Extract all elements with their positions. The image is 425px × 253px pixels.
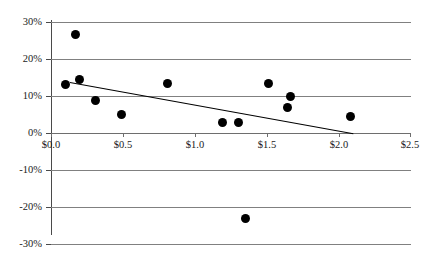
- gridline-20: [51, 59, 411, 60]
- x-tick-label-0: $0.0: [28, 140, 74, 150]
- data-point: [163, 79, 172, 88]
- gridline-10: [51, 96, 411, 97]
- data-point: [218, 118, 227, 127]
- data-point: [346, 112, 355, 121]
- data-point: [91, 96, 100, 105]
- data-point: [264, 79, 273, 88]
- figure-caption: [24, 243, 424, 253]
- scatter-chart: 30% 20% 10% 0% -10% -20% -30%: [0, 0, 425, 253]
- x-tick-label-2-5: $2.5: [387, 140, 425, 150]
- data-point: [61, 80, 70, 89]
- y-tick-label-20: 20%: [0, 54, 42, 64]
- data-point: [286, 92, 295, 101]
- x-tick-mark: [267, 133, 268, 137]
- data-point: [283, 103, 292, 112]
- data-point: [71, 30, 80, 39]
- plot-area: [51, 22, 411, 233]
- y-tick-label-neg10: -10%: [0, 165, 42, 175]
- x-tick-mark: [410, 133, 411, 137]
- gridline-neg20: [51, 207, 411, 208]
- x-tick-label-0-5: $0.5: [100, 140, 146, 150]
- gridline-zero: [51, 133, 411, 134]
- y-tick-label-neg20: -20%: [0, 202, 42, 212]
- data-point: [234, 118, 243, 127]
- x-tick-mark: [195, 133, 196, 137]
- y-tick-label-10: 10%: [0, 91, 42, 101]
- x-tick-label-1-0: $1.0: [172, 140, 218, 150]
- gridline-30: [51, 22, 411, 23]
- x-tick-label-2-0: $2.0: [316, 140, 362, 150]
- y-tick-label-30: 30%: [0, 17, 42, 27]
- trendline: [70, 82, 354, 134]
- data-point-outlier: [241, 214, 250, 223]
- x-tick-mark: [123, 133, 124, 137]
- data-point: [117, 110, 126, 119]
- x-tick-label-1-5: $1.5: [244, 140, 290, 150]
- x-tick-mark: [339, 133, 340, 137]
- gridline-neg10: [51, 170, 411, 171]
- y-tick-label-0: 0%: [0, 128, 42, 138]
- x-tick-mark: [51, 133, 52, 137]
